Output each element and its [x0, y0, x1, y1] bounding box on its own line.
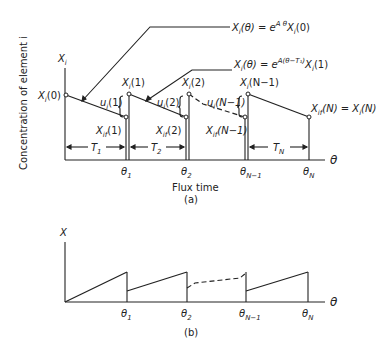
label-xfn1: Xif(N−1) — [205, 125, 247, 139]
b-tick-thetaN: θN — [302, 308, 314, 322]
tick-thetaN1: θN−1 — [240, 166, 262, 180]
a-x-axis-var: θ — [330, 153, 338, 167]
label-x0: Xi(0) — [37, 90, 61, 104]
caption-a: (a) — [184, 194, 198, 205]
equation-1: Xi(θ) = eA θXi(0) — [231, 20, 310, 36]
x-axis-label: Flux time — [172, 182, 219, 193]
label-xf2: Xif(2) — [155, 125, 182, 139]
y-axis-var: Xi — [57, 53, 67, 67]
label-TN: TN — [273, 142, 285, 156]
equation-2: Xi(θ) = eA(θ−T₁)Xi(1) — [233, 57, 328, 73]
label-xf1: Xif(1) — [95, 125, 122, 139]
label-T1: T1 — [91, 142, 102, 156]
tick-theta2: θ2 — [181, 166, 192, 180]
b-x-axis-var: θ — [330, 295, 338, 309]
tick-thetaN: θN — [303, 166, 315, 180]
label-u2: ui(2) — [157, 97, 180, 111]
label-T2: T2 — [151, 142, 162, 156]
tick-theta1: θ1 — [121, 166, 132, 180]
label-x2: Xi(2) — [181, 77, 205, 91]
b-tick-theta1: θ1 — [121, 308, 132, 322]
b-y-axis-var: X — [59, 227, 68, 238]
flux-time-diagram: Concentration of element i Xi Xi(0) Xi(1… — [0, 0, 385, 351]
label-x1: Xi(1) — [121, 77, 145, 91]
label-xfN: Xif(N) = Xi(N) — [310, 103, 376, 117]
b-tick-theta2: θ2 — [181, 308, 192, 322]
b-tick-thetaN1: θN−1 — [239, 308, 261, 322]
y-axis-label: Concentration of element i — [18, 36, 29, 170]
caption-b: (b) — [184, 327, 198, 338]
label-un1: ui(N−1) — [207, 97, 245, 111]
label-xn1: Xi(N−1) — [239, 77, 279, 91]
